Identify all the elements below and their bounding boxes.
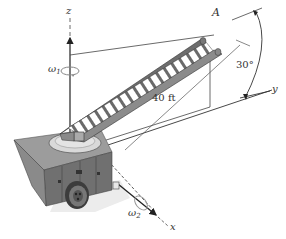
diagram-canvas bbox=[0, 0, 286, 239]
angle-label: 30° bbox=[236, 60, 254, 70]
omega2-symbol: ω bbox=[128, 207, 136, 218]
omega2-subscript: 2 bbox=[136, 212, 140, 220]
point-a-label: A bbox=[212, 7, 220, 18]
omega1-subscript: 1 bbox=[56, 68, 60, 76]
y-axis-label: y bbox=[272, 84, 278, 94]
angle-arc bbox=[243, 10, 262, 100]
omega1-symbol: ω bbox=[48, 63, 56, 74]
omega2-label: ω2 bbox=[128, 208, 141, 220]
diagram-figure: z y x A 30° 40 ft ω1 ω2 bbox=[0, 0, 286, 239]
z-axis-label: z bbox=[66, 6, 71, 16]
omega1-label: ω1 bbox=[48, 64, 61, 76]
x-axis-label: x bbox=[170, 222, 176, 232]
truck-wheel bbox=[65, 181, 89, 209]
length-label: 40 ft bbox=[152, 93, 176, 103]
